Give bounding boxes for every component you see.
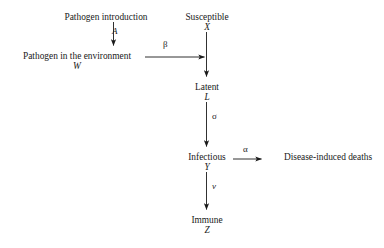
node-label-disease-induced-deaths: Disease-induced deaths — [284, 152, 372, 162]
node-disease-induced-deaths: Disease-induced deaths — [284, 152, 372, 162]
edge-label-mortality-alpha: α — [243, 145, 248, 154]
edge-label-transmission-beta: β — [163, 40, 168, 49]
edge-label-introduction-rate: A — [112, 27, 118, 36]
node-pathogen-introduction: Pathogen introduction — [64, 12, 147, 22]
node-label-pathogen-environment: Pathogen in the environment — [23, 51, 131, 61]
edge-label-recovery-nu: ν — [212, 182, 216, 191]
edge-layer — [0, 0, 384, 248]
node-symbol-immune: Z — [191, 225, 222, 235]
node-infectious: Infectious Y — [188, 152, 226, 172]
node-symbol-infectious: Y — [188, 162, 226, 172]
node-label-pathogen-introduction: Pathogen introduction — [64, 12, 147, 22]
node-immune: Immune Z — [191, 215, 222, 235]
node-symbol-latent: L — [195, 92, 219, 102]
node-label-susceptible: Susceptible — [185, 12, 228, 22]
node-label-immune: Immune — [191, 215, 222, 225]
node-symbol-pathogen-environment: W — [23, 61, 131, 71]
node-label-latent: Latent — [195, 82, 219, 92]
edge-label-progression-sigma: σ — [212, 112, 217, 121]
node-susceptible: Susceptible X — [185, 12, 228, 32]
compartment-model-diagram: Pathogen introduction Pathogen in the en… — [0, 0, 384, 248]
node-latent: Latent L — [195, 82, 219, 102]
node-label-infectious: Infectious — [188, 152, 226, 162]
node-symbol-susceptible: X — [185, 22, 228, 32]
node-pathogen-environment: Pathogen in the environment W — [23, 51, 131, 71]
